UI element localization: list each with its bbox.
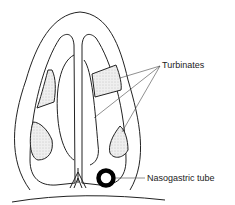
right-middle-turbinate	[92, 65, 121, 97]
left-inferior-turbinate	[30, 122, 52, 160]
label-nasogastric-tube: Nasogastric tube	[147, 173, 215, 183]
base-line	[12, 196, 165, 202]
outer-nose-outline	[15, 12, 141, 190]
right-inferior-turbinate	[109, 126, 128, 157]
label-turbinates: Turbinates	[162, 60, 204, 70]
left-nasal-cavity	[30, 34, 75, 185]
nasogastric-tube-icon	[99, 171, 114, 186]
